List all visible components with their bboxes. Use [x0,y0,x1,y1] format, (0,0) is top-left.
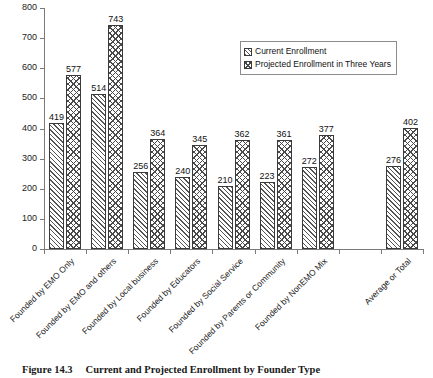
x-tick-mark [381,249,382,254]
bar-value-label: 377 [319,124,334,135]
y-tick-label: 600 [22,61,37,74]
chart-legend: Current EnrollmentProjected Enrollment i… [240,41,397,75]
y-tick-label: 200 [22,182,37,195]
bar-value-label: 362 [234,129,249,140]
x-category-label-text: Founded by Social Service [166,256,245,335]
bar-value-label: 256 [133,161,148,172]
x-category-label-text: Average or Total [362,256,413,307]
bar-value-label: 240 [175,166,190,177]
bar-projected[interactable]: 345 [192,145,207,249]
y-tick-label: 300 [22,152,37,165]
y-tick-label: 100 [22,212,37,225]
bar-group: 419577 [49,8,81,249]
bar-value-label: 419 [49,112,64,123]
bar-projected[interactable]: 402 [403,128,418,249]
bar-current[interactable]: 276 [386,166,401,249]
figure-number: Figure 14.3 [22,364,73,375]
bar-value-label: 364 [150,128,165,139]
figure-caption: Figure 14.3Current and Projected Enrollm… [22,363,320,376]
legend-swatch-diagonal-hatch [244,48,252,56]
y-tick-label: 0 [32,242,37,255]
legend-label: Current Enrollment [255,46,326,57]
figure-container: 0100200300400500600700800 41957751474325… [0,0,433,378]
y-tick-label: 700 [22,31,37,44]
legend-entry: Current Enrollment [244,45,391,58]
x-category-label-text: Founded by EMO and others [34,256,118,340]
bar-value-label: 276 [386,155,401,166]
x-tick-mark [44,249,45,254]
x-category-label-text: Founded by NonEMO Mix [253,256,329,332]
bar-value-label: 402 [403,117,418,128]
bar-value-label: 345 [192,134,207,145]
y-tick-label: 800 [22,1,37,14]
bar-value-label: 272 [302,156,317,167]
x-axis-line [44,249,423,250]
y-axis-tick: 500 [0,98,44,99]
y-tick-label: 400 [22,122,37,135]
bar-value-label: 514 [91,83,106,94]
bar-value-label: 743 [108,14,123,25]
y-axis-tick: 300 [0,159,44,160]
y-axis-tick: 200 [0,189,44,190]
bar-value-label: 361 [277,129,292,140]
bar-projected[interactable]: 361 [277,140,292,249]
bar-value-label: 577 [66,64,81,75]
bar-projected[interactable]: 364 [150,139,165,249]
y-axis-tick: 700 [0,38,44,39]
figure-caption-text: Current and Projected Enrollment by Foun… [86,364,321,375]
y-axis-tick: 100 [0,219,44,220]
legend-entry: Projected Enrollment in Three Years [244,58,391,71]
bar-projected[interactable]: 377 [319,135,334,249]
y-axis-tick: 400 [0,129,44,130]
x-category-label-text: Founded by Local business [80,256,160,336]
legend-swatch-cross-hatch [244,61,252,69]
y-tick-label: 500 [22,91,37,104]
bar-projected[interactable]: 362 [235,140,250,249]
y-axis-tick: 800 [0,8,44,9]
y-axis-tick: 0 [0,249,44,250]
bar-value-label: 223 [260,171,275,182]
y-axis-tick: 600 [0,68,44,69]
bar-current[interactable]: 419 [49,123,64,249]
legend-label: Projected Enrollment in Three Years [255,59,391,70]
bar-projected[interactable]: 577 [66,75,81,249]
